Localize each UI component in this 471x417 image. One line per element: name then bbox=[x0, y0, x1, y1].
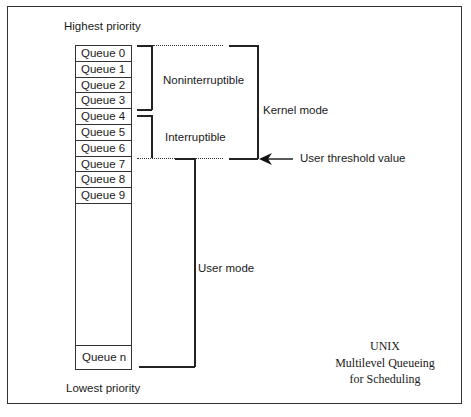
lowest-priority-label: Lowest priority bbox=[66, 382, 140, 395]
noninterruptible-bracket-bottom bbox=[137, 109, 152, 111]
highest-priority-label: Highest priority bbox=[64, 20, 141, 33]
user-bracket-side bbox=[194, 158, 196, 367]
queue-row-n: Queue n bbox=[76, 345, 131, 369]
kernel-bracket-top bbox=[229, 45, 258, 47]
queue-row: Queue 8 bbox=[76, 172, 131, 188]
interruptible-label: Interruptible bbox=[165, 131, 226, 144]
interruptible-bracket-side bbox=[151, 115, 153, 158]
queue-row: Queue 3 bbox=[76, 93, 131, 109]
top-dotted-guide bbox=[153, 45, 223, 46]
caption-line-1: UNIX bbox=[310, 338, 460, 355]
user-bracket-top bbox=[175, 158, 195, 160]
queue-row: Queue 6 bbox=[76, 141, 131, 157]
caption-line-3: for Scheduling bbox=[310, 371, 460, 388]
threshold-arrow-icon bbox=[258, 150, 298, 168]
user-bracket-bottom bbox=[139, 366, 195, 368]
queue-row: Queue 1 bbox=[76, 62, 131, 78]
queue-row: Queue 9 bbox=[76, 188, 131, 204]
kernel-bracket-bottom bbox=[229, 158, 258, 160]
queue-row: Queue 5 bbox=[76, 125, 131, 141]
noninterruptible-bracket-top bbox=[137, 45, 152, 47]
interruptible-bracket-top bbox=[137, 115, 152, 117]
queue-row: Queue 0 bbox=[76, 46, 131, 62]
user-mode-label: User mode bbox=[198, 262, 254, 275]
queue-row: Queue 4 bbox=[76, 109, 131, 125]
user-threshold-label: User threshold value bbox=[300, 152, 405, 165]
noninterruptible-label: Noninterruptible bbox=[163, 74, 244, 87]
diagram-caption: UNIX Multilevel Queueing for Scheduling bbox=[310, 338, 460, 388]
noninterruptible-bracket-side bbox=[151, 45, 153, 110]
kernel-mode-label: Kernel mode bbox=[263, 104, 328, 117]
queue-stack: Queue 0 Queue 1 Queue 2 Queue 3 Queue 4 … bbox=[75, 45, 132, 370]
queue-row: Queue 7 bbox=[76, 157, 131, 173]
queue-row: Queue 2 bbox=[76, 78, 131, 94]
caption-line-2: Multilevel Queueing bbox=[310, 355, 460, 372]
kernel-bracket-side bbox=[257, 45, 259, 159]
